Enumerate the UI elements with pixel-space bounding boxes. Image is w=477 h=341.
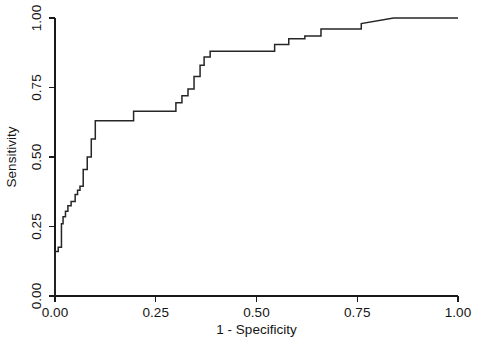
roc-curve-figure: 0.00 0.25 0.50 0.75 1.00 0.00 0.25 0.50 … (0, 0, 477, 341)
y-tick-label: 0.50 (29, 144, 44, 170)
y-tick-label: 0.25 (29, 213, 44, 239)
x-tick-label: 0.75 (344, 305, 370, 320)
y-axis-title: Sensitivity (4, 126, 19, 187)
x-tick-label: 0.50 (243, 305, 269, 320)
x-tick-label: 1.00 (445, 305, 471, 320)
y-tick-label: 1.00 (29, 5, 44, 31)
x-tick-label: 0.25 (143, 305, 169, 320)
x-axis-title: 1 - Specificity (216, 322, 297, 337)
y-tick-label: 0.75 (29, 74, 44, 100)
x-tick-label: 0.00 (42, 305, 68, 320)
